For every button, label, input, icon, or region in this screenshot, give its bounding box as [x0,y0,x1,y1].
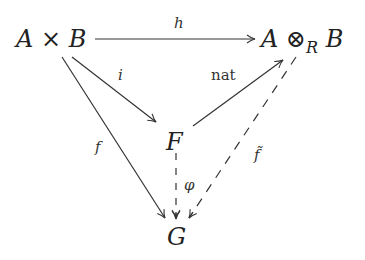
times-symbol: × [41,25,61,53]
node-f: F [166,130,183,154]
a-symbol: A [16,25,33,53]
node-g: G [167,225,186,249]
arrow-nat [193,60,283,126]
commutative-diagram: A × B A ⊗R B F G h i f nat φ f̃ [0,0,365,260]
arrow-f [62,57,165,218]
label-f: f [95,140,101,155]
tensor-symbol: ⊗ [286,25,306,53]
a-symbol: A [261,25,278,53]
b-symbol: B [326,25,344,53]
node-a-tensor-b: A ⊗R B [261,27,343,51]
label-nat: nat [211,68,236,83]
arrow-ftilde-head [189,212,193,218]
arrow-ftilde [189,57,296,218]
b-symbol: B [69,25,87,53]
label-phi: φ [184,178,195,193]
node-a-times-b: A × B [16,27,86,51]
ring-subscript: R [306,38,318,57]
label-i: i [118,68,123,83]
arrow-i [72,57,156,122]
label-ftilde: f̃ [254,148,260,163]
label-h: h [174,16,184,31]
